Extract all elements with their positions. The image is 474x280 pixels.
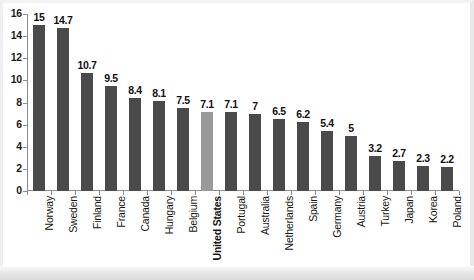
x-axis-label-slot: Belgium: [171, 196, 195, 264]
bar-group[interactable]: 15: [27, 14, 51, 191]
x-axis-tick-mark: [147, 191, 148, 195]
x-axis-tick-mark: [435, 191, 436, 195]
bar-group[interactable]: 6.2: [291, 14, 315, 191]
bar-group[interactable]: 8.4: [123, 14, 147, 191]
bar-value-label: 6.5: [272, 105, 286, 117]
bar-value-label: 7.1: [224, 98, 238, 110]
x-axis-ticks: [27, 191, 459, 195]
bar-value-label: 6.2: [296, 108, 310, 120]
bar-group[interactable]: 5.4: [315, 14, 339, 191]
bar[interactable]: [177, 108, 189, 191]
x-axis-tick-mark: [75, 191, 76, 195]
x-axis-label-slot: Turkey: [363, 196, 387, 264]
bar-group[interactable]: 8.1: [147, 14, 171, 191]
x-axis-label-slot: Austria: [339, 196, 363, 264]
bar-group[interactable]: 7.1: [219, 14, 243, 191]
x-axis-tick-mark: [387, 191, 388, 195]
bar-chart: 1614121086420 1514.710.79.58.48.17.57.17…: [0, 0, 474, 266]
x-axis-label-slot: Spain: [291, 196, 315, 264]
bar[interactable]: [321, 131, 333, 191]
bar-group[interactable]: 10.7: [75, 14, 99, 191]
y-axis-tick-label: 8: [16, 96, 22, 108]
bar[interactable]: [249, 114, 261, 191]
x-axis-labels: NorwaySwedenFinlandFranceCanadaHungaryBe…: [27, 196, 459, 264]
bar[interactable]: [441, 167, 453, 191]
x-axis-tick-mark: [315, 191, 316, 195]
bar[interactable]: [129, 98, 141, 191]
x-axis-tick-mark: [291, 191, 292, 195]
x-axis-label-slot: Germany: [315, 196, 339, 264]
y-axis-tick-label: 10: [11, 73, 22, 85]
bar[interactable]: [105, 86, 117, 191]
bar[interactable]: [81, 73, 93, 191]
bar[interactable]: [201, 112, 213, 191]
x-axis-tick-mark: [219, 191, 220, 195]
bar-value-label: 8.1: [152, 87, 166, 99]
bar-group[interactable]: 2.3: [411, 14, 435, 191]
y-axis-tick-label: 2: [16, 162, 22, 174]
x-axis-label-slot: Finland: [75, 196, 99, 264]
x-axis-label-slot: Poland: [435, 196, 459, 264]
bar-value-label: 7: [252, 100, 258, 112]
x-axis-tick-mark: [99, 191, 100, 195]
x-axis-label-slot: Hungary: [147, 196, 171, 264]
bar-group[interactable]: 14.7: [51, 14, 75, 191]
bar[interactable]: [273, 119, 285, 191]
bar-group[interactable]: 3.2: [363, 14, 387, 191]
bar-group[interactable]: 5: [339, 14, 363, 191]
bar-group[interactable]: 9.5: [99, 14, 123, 191]
x-axis-label-slot: Korea: [411, 196, 435, 264]
x-axis-tick-mark: [411, 191, 412, 195]
bar-value-label: 15: [33, 11, 44, 23]
bar-value-label: 2.2: [440, 153, 454, 165]
bar-group[interactable]: 2.7: [387, 14, 411, 191]
y-axis-tick-label: 12: [11, 51, 22, 63]
x-axis-tick-mark: [171, 191, 172, 195]
bar[interactable]: [297, 122, 309, 191]
x-axis-tick-mark: [123, 191, 124, 195]
bar[interactable]: [225, 112, 237, 191]
x-axis-tick-mark: [27, 191, 28, 195]
x-axis-label-slot: Portugal: [219, 196, 243, 264]
bar-value-label: 10.7: [77, 59, 96, 71]
x-axis-tick-mark: [195, 191, 196, 195]
bar-value-label: 9.5: [104, 72, 118, 84]
y-axis-tick-label: 14: [11, 29, 22, 41]
bar-value-label: 8.4: [128, 84, 142, 96]
y-axis-tick-label: 6: [16, 118, 22, 130]
bar-group[interactable]: 6.5: [267, 14, 291, 191]
bar[interactable]: [369, 156, 381, 191]
y-axis-tick-label: 16: [11, 7, 22, 19]
x-axis-tick-mark: [267, 191, 268, 195]
x-axis-label: Poland: [451, 196, 463, 228]
bar[interactable]: [33, 25, 45, 191]
x-axis-label-slot: Netherlands: [267, 196, 291, 264]
bar-value-label: 2.7: [392, 147, 406, 159]
x-axis-label-slot: Australia: [243, 196, 267, 264]
x-axis-label-slot: Canada: [123, 196, 147, 264]
bar-group[interactable]: 7.1: [195, 14, 219, 191]
bar-value-label: 5.4: [320, 117, 334, 129]
x-axis-label-slot: Japan: [387, 196, 411, 264]
bar[interactable]: [153, 101, 165, 191]
bar-group[interactable]: 7.5: [171, 14, 195, 191]
bar[interactable]: [57, 28, 69, 191]
x-axis-label-slot: United States: [195, 196, 219, 264]
x-axis-tick-mark: [363, 191, 364, 195]
bar-value-label: 2.3: [416, 152, 430, 164]
x-axis-tick-mark: [51, 191, 52, 195]
bar-group[interactable]: 2.2: [435, 14, 459, 191]
bar[interactable]: [417, 166, 429, 191]
y-axis-tick-label: 4: [16, 140, 22, 152]
x-axis-tick-mark: [339, 191, 340, 195]
bar[interactable]: [393, 161, 405, 191]
bar-value-label: 3.2: [368, 142, 382, 154]
x-axis-label-slot: Sweden: [51, 196, 75, 264]
x-axis-label-slot: France: [99, 196, 123, 264]
bar-group[interactable]: 7: [243, 14, 267, 191]
bar[interactable]: [345, 136, 357, 191]
y-axis-tick-label: 0: [16, 184, 22, 196]
chart-screenshot: 1614121086420 1514.710.79.58.48.17.57.17…: [0, 0, 474, 280]
x-axis-label-slot: Norway: [27, 196, 51, 264]
bottom-band: [0, 266, 474, 280]
